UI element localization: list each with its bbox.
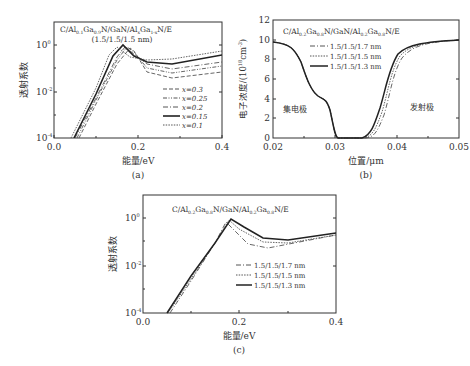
panel-b-ylabel: 电子浓度/(1018cm-3) (237, 39, 248, 119)
figure-canvas: 0.0 0.2 0.4 100 10-2 10-4 透射系数 能量/eV (a)… (0, 0, 470, 366)
svg-text:2: 2 (264, 113, 270, 123)
panel-c-ylabel: 透射系数 (107, 236, 118, 272)
panel-c-xtick: 0.4 (329, 317, 344, 327)
panel-c-yticks: 100 10-2 10-4 (125, 212, 141, 318)
panel-b-xtick: 0.02 (263, 142, 283, 152)
svg-text:1.5/1.5/1.7 nm: 1.5/1.5/1.7 nm (330, 43, 382, 51)
panel-a-ylabel: 透射系数 (18, 62, 29, 98)
svg-text:0: 0 (264, 133, 270, 143)
svg-text:4: 4 (264, 94, 270, 104)
svg-text:10-2: 10-2 (125, 260, 141, 271)
svg-text:x=0.25: x=0.25 (182, 95, 208, 103)
panel-b-xlabel: 位置/μm (348, 155, 384, 166)
svg-text:电子浓度/(1018cm-3): 电子浓度/(1018cm-3) (237, 39, 248, 119)
svg-text:x=0.15: x=0.15 (182, 113, 208, 121)
panel-b-xtick: 0.03 (325, 142, 345, 152)
svg-text:8: 8 (264, 54, 270, 64)
svg-text:100: 100 (125, 212, 140, 223)
panel-c-xtick: 0.2 (232, 317, 246, 327)
panel-a-xtick: 0.4 (215, 142, 230, 152)
svg-text:x=0.3: x=0.3 (182, 86, 203, 94)
panel-c-title: C/Al0.2Ga0.8N/GaN/Al0.2Ga0.8N/E (172, 205, 289, 215)
panel-b-caption: (b) (360, 170, 373, 180)
panel-a-title: C/Al0.1Ga0.9N/GaN/AlxGa1-xN/E (1.5/1.5/1… (60, 25, 172, 44)
svg-text:10-2: 10-2 (36, 86, 52, 97)
svg-text:100: 100 (36, 39, 51, 50)
svg-text:(1.5/1.5/1.5 nm): (1.5/1.5/1.5 nm) (91, 35, 152, 44)
panel-a-legend: x=0.3 x=0.25 x=0.2 x=0.15 x=0.1 (163, 86, 208, 130)
panel-b-annotation-collector: 集电极 (283, 104, 307, 114)
panel-a-caption: (a) (132, 170, 144, 180)
panel-b-xtick: 0.05 (449, 142, 469, 152)
panel-b-title: C/Al0.2Ga0.8N/GaN/Al0.2Ga0.8N/E (283, 27, 400, 37)
panel-b-yticks: 0 2 4 6 8 10 12 (259, 15, 271, 143)
panel-b-legend: 1.5/1.5/1.7 nm 1.5/1.5/1.5 nm 1.5/1.5/1.… (310, 43, 382, 71)
panel-a-xtick: 0.0 (47, 142, 62, 152)
svg-text:x=0.1: x=0.1 (182, 122, 203, 130)
svg-text:1.5/1.5/1.3 nm: 1.5/1.5/1.3 nm (254, 282, 306, 290)
panel-b-annotation-emitter: 发射极 (410, 102, 434, 112)
svg-text:C/Al0.1Ga0.9N/GaN/AlxGa1-xN/E: C/Al0.1Ga0.9N/GaN/AlxGa1-xN/E (60, 25, 172, 35)
svg-text:1.5/1.5/1.5 nm: 1.5/1.5/1.5 nm (254, 272, 306, 280)
panel-a-xlabel: 能量/eV (122, 155, 155, 166)
svg-text:1.5/1.5/1.7 nm: 1.5/1.5/1.7 nm (254, 262, 306, 270)
svg-text:6: 6 (264, 74, 270, 84)
svg-text:1.5/1.5/1.3 nm: 1.5/1.5/1.3 nm (330, 63, 382, 71)
panel-a-yticks: 100 10-2 10-4 (36, 39, 52, 143)
panel-c-curves (167, 219, 336, 313)
series-1.5-1.5-1.7nm (170, 222, 336, 313)
panel-b-plot-frame (273, 20, 459, 138)
panel-b: 0.02 0.03 0.04 0.05 0 2 4 6 8 10 12 电子浓度… (237, 15, 469, 180)
svg-text:10: 10 (259, 35, 271, 45)
panel-a: 0.0 0.2 0.4 100 10-2 10-4 透射系数 能量/eV (a)… (18, 22, 229, 180)
series-1.5-1.5-1.3nm (167, 219, 336, 313)
panel-c-xlabel: 能量/eV (223, 330, 256, 341)
panel-b-xtick: 0.04 (387, 142, 407, 152)
panel-c-caption: (c) (233, 345, 245, 355)
panel-c-xtick: 0.0 (136, 317, 151, 327)
panel-a-xtick: 0.2 (131, 142, 145, 152)
panel-c-legend: 1.5/1.5/1.7 nm 1.5/1.5/1.5 nm 1.5/1.5/1.… (236, 262, 306, 290)
svg-text:1.5/1.5/1.5 nm: 1.5/1.5/1.5 nm (330, 53, 382, 61)
svg-text:12: 12 (259, 15, 270, 25)
svg-text:x=0.2: x=0.2 (182, 104, 203, 112)
panel-c: 0.0 0.2 0.4 100 10-2 10-4 透射系数 能量/eV (c)… (107, 195, 343, 355)
series-1.5-1.5-1.5nm (168, 220, 336, 313)
